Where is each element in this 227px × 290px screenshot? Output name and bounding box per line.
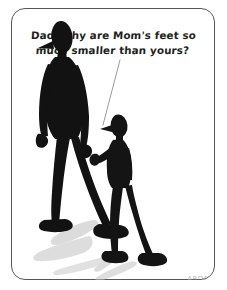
artist-signature: ARDAI: [187, 275, 211, 280]
cartoon-panel: Dad, why are Mom's feet so much smaller …: [0, 0, 227, 290]
child-figure: [89, 114, 167, 266]
panel-content-area: Dad, why are Mom's feet so much smaller …: [11, 8, 215, 280]
figures-artwork: [11, 8, 215, 280]
